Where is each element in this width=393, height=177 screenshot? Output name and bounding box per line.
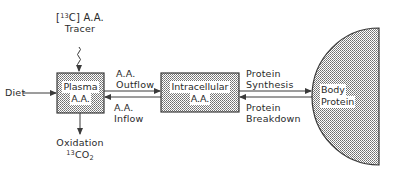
plasma-label-line1: Plasma (62, 81, 98, 93)
oxidation-formula: 13CO2 (50, 148, 110, 164)
body-protein-label-line2: Protein (320, 96, 355, 108)
diet-label: Diet (5, 87, 25, 98)
tracer-arrow (78, 47, 81, 71)
tracer-line2: Tracer (50, 23, 110, 34)
intracellular-label-line1: Intracellular (170, 81, 229, 93)
intracellular-label-line2: A.A. (190, 93, 211, 105)
amino-acid-kinetics-diagram: [13C] A.A. Tracer Diet Plasma A.A. Intra… (0, 0, 393, 177)
inflow-label-line1: A.A. (114, 102, 144, 113)
synthesis-label: Protein Synthesis (246, 68, 294, 90)
synthesis-label-line2: Synthesis (246, 79, 294, 90)
intracellular-label: Intracellular A.A. (161, 81, 239, 105)
oxidation-label-line1: Oxidation (50, 137, 110, 148)
plasma-label: Plasma A.A. (57, 81, 104, 105)
breakdown-label-line2: Breakdown (246, 113, 301, 124)
oxidation-isotope-mass: 13 (66, 149, 75, 157)
oxidation-formula-text: CO (75, 149, 90, 160)
oxidation-formula-subscript: 2 (89, 154, 93, 162)
tracer-label: [13C] A.A. Tracer (50, 11, 110, 34)
synthesis-label-line1: Protein (246, 68, 294, 79)
tracer-element: C (69, 12, 76, 23)
outflow-label: A.A. Outflow (116, 68, 154, 90)
oxidation-label: Oxidation 13CO2 (50, 137, 110, 164)
breakdown-label: Protein Breakdown (246, 102, 301, 124)
tracer-suffix: A.A. (80, 12, 104, 23)
body-protein-label-line1: Body (320, 84, 346, 96)
inflow-label: A.A. Inflow (114, 102, 144, 124)
body-protein-label: Body Protein (320, 84, 355, 108)
tracer-isotope-mass: 13 (60, 12, 69, 20)
plasma-label-line2: A.A. (70, 93, 91, 105)
inflow-label-line2: Inflow (114, 113, 144, 124)
breakdown-label-line1: Protein (246, 102, 301, 113)
tracer-line1: [13C] A.A. (50, 11, 110, 23)
outflow-label-line1: A.A. (116, 68, 154, 79)
outflow-label-line2: Outflow (116, 79, 154, 90)
